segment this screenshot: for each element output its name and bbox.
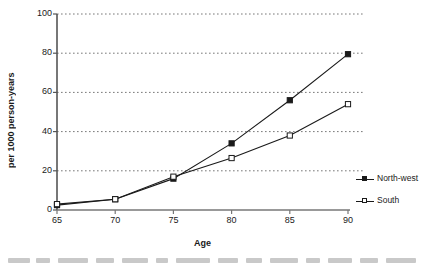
legend-item-south[interactable]: South: [356, 190, 418, 212]
x-axis-tick-label: 80: [217, 215, 247, 225]
legend-label: North-west: [377, 173, 418, 185]
legend-label: South: [377, 195, 399, 207]
y-axis-tick-label: 100: [30, 9, 52, 18]
data-point-marker: [287, 133, 292, 138]
y-axis-tick-label: 80: [30, 48, 52, 57]
x-axis-tick-label: 70: [100, 215, 130, 225]
data-point-marker: [345, 52, 350, 57]
series-line-north-west: [57, 54, 348, 205]
y-axis-tick-label: 20: [30, 166, 52, 175]
chart-legend: North-west South: [356, 168, 418, 212]
line-chart: per 1000 person-years 020406080100 65707…: [0, 0, 429, 264]
x-axis-tick-label: 75: [158, 215, 188, 225]
legend-item-north-west[interactable]: North-west: [356, 168, 418, 190]
data-point-marker: [171, 174, 176, 179]
x-axis-tick-label: 90: [333, 215, 363, 225]
y-axis-tick-label: 40: [30, 127, 52, 136]
series-line-south: [57, 104, 348, 204]
y-axis-tick-label: 60: [30, 87, 52, 96]
page-caption-fragment: [0, 256, 429, 264]
y-axis-title: per 1000 person-years: [2, 40, 20, 200]
data-point-marker: [229, 155, 234, 160]
data-point-marker: [113, 197, 118, 202]
data-point-marker: [345, 102, 350, 107]
data-point-marker: [287, 98, 292, 103]
x-axis-title: Age: [57, 238, 348, 248]
x-axis-tick-label: 65: [42, 215, 72, 225]
legend-marker-filled-square-icon: [356, 174, 374, 184]
legend-marker-open-square-icon: [356, 196, 374, 206]
data-point-marker: [54, 202, 59, 207]
y-axis-tick-label: 0: [30, 205, 52, 214]
x-axis-tick-label: 85: [275, 215, 305, 225]
data-point-marker: [229, 141, 234, 146]
